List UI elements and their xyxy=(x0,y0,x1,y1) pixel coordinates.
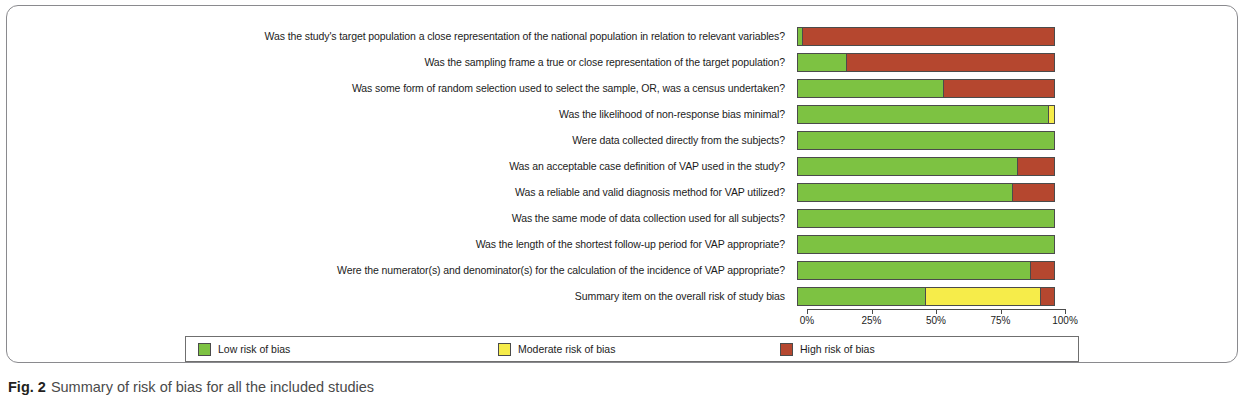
legend-label-low-risk: Low risk of bias xyxy=(218,343,290,355)
x-axis-tick-label: 75% xyxy=(990,315,1010,327)
chart-row-label: Was the same mode of data collection use… xyxy=(7,212,797,224)
bar-segment-low-risk xyxy=(798,132,1054,149)
chart-legend: Low risk of bias Moderate risk of bias H… xyxy=(185,336,1079,362)
legend-item-low-risk: Low risk of bias xyxy=(186,337,498,361)
chart-row: Were data collected directly from the su… xyxy=(7,127,1239,153)
bar-segment-high-risk xyxy=(802,28,1054,45)
x-axis-tick-label: 25% xyxy=(861,315,881,327)
bar-segment-high-risk xyxy=(1012,184,1054,201)
bar-segment-low-risk xyxy=(798,184,1013,201)
chart-row: Was the study's target population a clos… xyxy=(7,23,1239,49)
chart-row-label: Was the length of the shortest follow-up… xyxy=(7,238,797,250)
x-axis-tick xyxy=(1065,309,1066,314)
chart-bar xyxy=(797,287,1055,306)
figure-caption-text: Summary of risk of bias for all the incl… xyxy=(51,379,374,395)
bar-segment-high-risk xyxy=(846,54,1054,71)
bar-segment-moderate-risk xyxy=(1048,106,1054,123)
x-axis-tick xyxy=(807,309,808,314)
bar-segment-high-risk xyxy=(943,80,1054,97)
chart-row-label: Were the numerator(s) and denominator(s)… xyxy=(7,264,797,276)
figure-container: Was the study's target population a clos… xyxy=(0,0,1250,410)
chart-row-label: Was the sampling frame a true or close r… xyxy=(7,56,797,68)
chart-row-label: Was the study's target population a clos… xyxy=(7,30,797,42)
chart-row: Was the length of the shortest follow-up… xyxy=(7,231,1239,257)
figure-card: Was the study's target population a clos… xyxy=(6,5,1238,363)
bar-segment-low-risk xyxy=(798,80,944,97)
chart-bar xyxy=(797,53,1055,72)
chart-row-label: Summary item on the overall risk of stud… xyxy=(7,290,797,302)
chart-row: Were the numerator(s) and denominator(s)… xyxy=(7,257,1239,283)
chart-plot-area: Was the study's target population a clos… xyxy=(7,6,1239,328)
chart-row: Was some form of random selection used t… xyxy=(7,75,1239,101)
chart-bar xyxy=(797,131,1055,150)
legend-label-high-risk: High risk of bias xyxy=(800,343,875,355)
bar-segment-low-risk xyxy=(798,210,1054,227)
bar-segment-high-risk xyxy=(1040,288,1054,305)
bar-segment-low-risk xyxy=(798,262,1031,279)
x-axis-tick-label: 50% xyxy=(926,315,946,327)
legend-item-high-risk: High risk of bias xyxy=(780,337,1060,361)
chart-bar xyxy=(797,157,1055,176)
x-axis-tick xyxy=(1001,309,1002,314)
chart-row: Was an acceptable case definition of VAP… xyxy=(7,153,1239,179)
bar-segment-high-risk xyxy=(1030,262,1054,279)
bar-segment-low-risk xyxy=(798,158,1018,175)
x-axis: 0%25%50%75%100% xyxy=(797,309,1057,329)
chart-row-label: Was the likelihood of non-response bias … xyxy=(7,108,797,120)
x-axis-tick-label: 0% xyxy=(800,315,814,327)
bar-segment-low-risk xyxy=(798,236,1054,253)
chart-row: Was a reliable and valid diagnosis metho… xyxy=(7,179,1239,205)
figure-caption-label: Fig. 2 xyxy=(8,379,46,395)
legend-swatch-low-risk xyxy=(198,343,211,356)
chart-row-label: Was some form of random selection used t… xyxy=(7,82,797,94)
bar-rows: Was the study's target population a clos… xyxy=(7,23,1239,309)
legend-label-moderate-risk: Moderate risk of bias xyxy=(518,343,615,355)
chart-bar xyxy=(797,261,1055,280)
bar-segment-low-risk xyxy=(798,106,1049,123)
chart-bar xyxy=(797,183,1055,202)
legend-item-moderate-risk: Moderate risk of bias xyxy=(498,337,780,361)
bar-segment-low-risk xyxy=(798,288,926,305)
chart-row: Was the same mode of data collection use… xyxy=(7,205,1239,231)
bar-segment-low-risk xyxy=(798,54,847,71)
chart-bar xyxy=(797,79,1055,98)
chart-row-label: Were data collected directly from the su… xyxy=(7,134,797,146)
chart-row: Summary item on the overall risk of stud… xyxy=(7,283,1239,309)
x-axis-tick xyxy=(872,309,873,314)
bar-segment-moderate-risk xyxy=(925,288,1041,305)
chart-bar xyxy=(797,235,1055,254)
x-axis-tick-label: 100% xyxy=(1052,315,1078,327)
chart-row-label: Was an acceptable case definition of VAP… xyxy=(7,160,797,172)
chart-row-label: Was a reliable and valid diagnosis metho… xyxy=(7,186,797,198)
chart-bar xyxy=(797,105,1055,124)
x-axis-tick xyxy=(936,309,937,314)
chart-bar xyxy=(797,27,1055,46)
bar-segment-high-risk xyxy=(1017,158,1054,175)
figure-caption: Fig. 2Summary of risk of bias for all th… xyxy=(8,378,1238,396)
chart-row: Was the sampling frame a true or close r… xyxy=(7,49,1239,75)
x-axis-tick-labels: 0%25%50%75%100% xyxy=(797,315,1077,329)
chart-row: Was the likelihood of non-response bias … xyxy=(7,101,1239,127)
chart-bar xyxy=(797,209,1055,228)
legend-swatch-moderate-risk xyxy=(498,343,511,356)
legend-swatch-high-risk xyxy=(780,343,793,356)
